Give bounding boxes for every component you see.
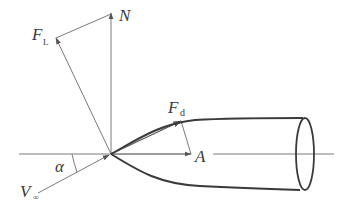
axial-force-label: A: [194, 147, 206, 166]
freestream-velocity-label: V ∞: [20, 182, 39, 202]
lift-force-label: F L: [31, 25, 49, 47]
svg-text:∞: ∞: [33, 193, 39, 202]
lift-normal-construction-line: [56, 14, 111, 38]
angle-of-attack-label: α: [55, 157, 65, 176]
normal-force-label: N: [118, 6, 132, 25]
svg-text:F: F: [31, 25, 43, 44]
svg-text:V: V: [20, 182, 33, 201]
drag-axial-construction-line: [181, 121, 191, 154]
drag-force-label: F d: [167, 98, 185, 118]
lift-force-arrow: [56, 38, 111, 154]
svg-text:d: d: [180, 107, 185, 118]
svg-text:F: F: [167, 98, 179, 117]
svg-text:L: L: [43, 37, 49, 47]
force-diagram: N F L F d A α V ∞: [0, 0, 347, 212]
angle-of-attack-arc: [72, 154, 77, 172]
